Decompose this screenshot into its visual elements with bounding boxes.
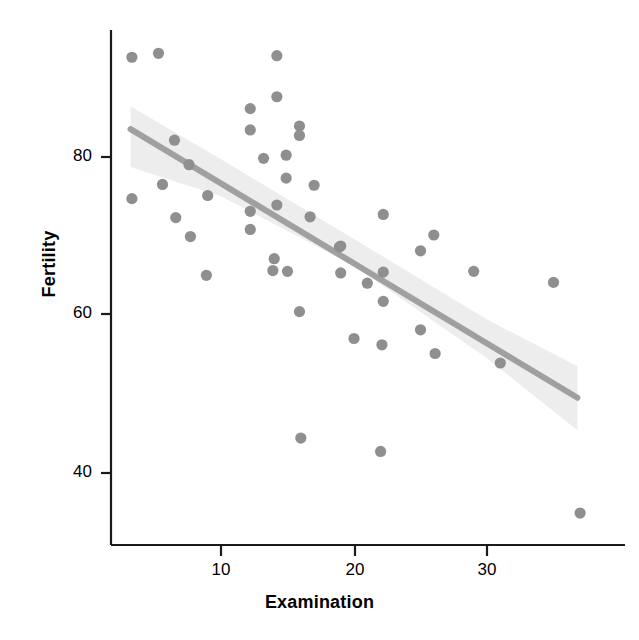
data-point <box>430 348 441 359</box>
data-point <box>375 446 386 457</box>
data-point <box>202 190 213 201</box>
data-point <box>415 245 426 256</box>
data-point <box>271 199 282 210</box>
data-point <box>245 224 256 235</box>
confidence-band-area <box>131 106 578 430</box>
x-axis-title: Examination <box>0 592 639 613</box>
data-point <box>378 296 389 307</box>
data-point <box>468 266 479 277</box>
data-point <box>153 48 164 59</box>
data-point <box>335 240 346 251</box>
data-point <box>271 91 282 102</box>
regression-line-path <box>131 129 578 398</box>
data-point <box>495 357 506 368</box>
chart-canvas: 80 60 40 10 20 30 Examination Fertility <box>0 0 639 640</box>
data-point <box>245 103 256 114</box>
scatter-plot-svg <box>0 0 639 640</box>
data-point <box>267 265 278 276</box>
data-point <box>281 173 292 184</box>
data-point <box>245 206 256 217</box>
data-point <box>295 432 306 443</box>
data-point <box>269 253 280 264</box>
data-point <box>258 153 269 164</box>
data-point <box>185 231 196 242</box>
data-point <box>376 339 387 350</box>
data-points <box>126 48 585 519</box>
data-point <box>183 159 194 170</box>
y-axis-title: Fertility <box>39 209 60 319</box>
data-point <box>362 278 373 289</box>
data-point <box>335 267 346 278</box>
data-point <box>126 193 137 204</box>
data-point <box>378 209 389 220</box>
x-tick-label-30: 30 <box>465 560 509 580</box>
x-tick-label-20: 20 <box>333 560 377 580</box>
data-point <box>548 277 559 288</box>
data-point <box>378 267 389 278</box>
data-point <box>201 270 212 281</box>
data-point <box>294 130 305 141</box>
data-point <box>415 324 426 335</box>
regression-line <box>131 129 578 398</box>
data-point <box>245 124 256 135</box>
data-point <box>282 266 293 277</box>
data-point <box>575 507 586 518</box>
data-point <box>169 135 180 146</box>
data-point <box>428 229 439 240</box>
data-point <box>305 211 316 222</box>
y-tick-label-80: 80 <box>48 146 92 166</box>
data-point <box>294 306 305 317</box>
data-point <box>157 179 168 190</box>
data-point <box>271 50 282 61</box>
y-tick-label-40: 40 <box>48 462 92 482</box>
data-point <box>348 333 359 344</box>
data-point <box>281 150 292 161</box>
axis-lines <box>101 30 625 556</box>
data-point <box>170 212 181 223</box>
data-point <box>126 52 137 63</box>
data-point <box>309 180 320 191</box>
x-tick-label-10: 10 <box>199 560 243 580</box>
confidence-band <box>131 106 578 430</box>
